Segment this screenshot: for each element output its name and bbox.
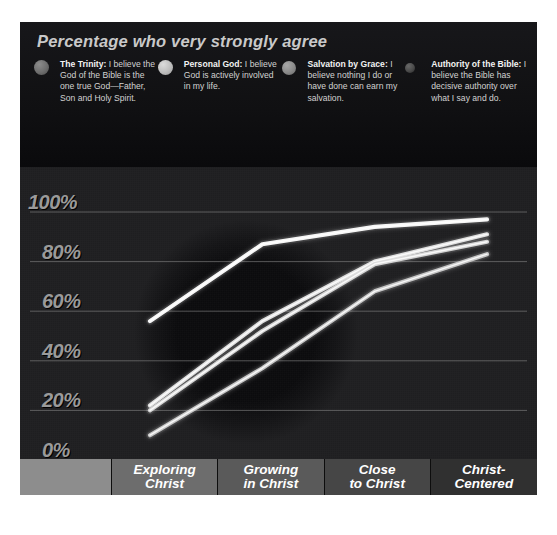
series-glow-1	[150, 234, 487, 405]
legend-item-authority-of-the-bible: Authority of the Bible: I believe the Bi…	[405, 58, 529, 104]
series-highlight-1	[150, 234, 487, 405]
y-tick-label-20: 20%	[42, 389, 81, 412]
x-axis-label-line2: to Christ	[349, 477, 405, 492]
x-axis-label-line1: Close	[349, 463, 405, 478]
legend-item-salvation-by-grace: Salvation by Grace: I believe nothing I …	[282, 58, 406, 104]
legend-label-title: The Trinity:	[60, 59, 106, 69]
x-axis-label-text: ExploringChrist	[133, 463, 195, 492]
x-axis-label-text: Christ-Centered	[455, 463, 514, 492]
x-axis-label-line2: in Christ	[243, 477, 298, 492]
legend-dot-icon	[34, 60, 49, 75]
legend-label: Salvation by Grace: I believe nothing I …	[308, 58, 404, 104]
legend-label-title: Salvation by Grace:	[308, 59, 388, 69]
x-axis-label-3: Closeto Christ	[325, 459, 431, 495]
chart-figure: Percentage who very strongly agree The T…	[0, 0, 557, 535]
legend-dot-icon	[405, 63, 415, 73]
legend-label: Authority of the Bible: I believe the Bi…	[431, 58, 527, 104]
legend-label: Personal God: I believe God is actively …	[184, 58, 280, 93]
legend-dot-icon	[158, 60, 173, 75]
x-axis-spacer	[20, 459, 112, 495]
y-tick-label-100: 100%	[28, 191, 77, 214]
x-axis-label-line1: Christ-	[455, 463, 514, 478]
x-axis-label-line2: Centered	[455, 477, 514, 492]
legend-swatch-wrap	[34, 58, 60, 75]
chart-legend: The Trinity: I believe the God of the Bi…	[34, 58, 529, 104]
legend-item-personal-god: Personal God: I believe God is actively …	[158, 58, 282, 104]
y-tick-label-60: 60%	[42, 290, 81, 313]
legend-label-title: Authority of the Bible:	[431, 59, 521, 69]
y-tick-label-80: 80%	[42, 241, 81, 264]
x-axis-label-text: Growingin Christ	[243, 463, 298, 492]
x-axis-labels: ExploringChristGrowingin ChristCloseto C…	[20, 459, 537, 495]
legend-dot-icon	[282, 61, 296, 75]
series-glow-3	[150, 254, 487, 435]
x-axis-label-1: ExploringChrist	[112, 459, 218, 495]
series-line-1	[150, 234, 487, 405]
legend-item-trinity: The Trinity: I believe the God of the Bi…	[34, 58, 158, 104]
plot-lines-svg	[20, 167, 537, 459]
y-tick-label-40: 40%	[42, 340, 81, 363]
legend-label: The Trinity: I believe the God of the Bi…	[60, 58, 156, 104]
legend-swatch-wrap	[282, 58, 308, 75]
plot-area: 100%80%60%40%20%0%	[20, 167, 537, 459]
legend-swatch-wrap	[158, 58, 184, 75]
legend-swatch-wrap	[405, 58, 431, 73]
x-axis-label-4: Christ-Centered	[431, 459, 537, 495]
chart-header: Percentage who very strongly agree The T…	[20, 22, 537, 167]
chart-panel: Percentage who very strongly agree The T…	[20, 22, 537, 495]
chart-title: Percentage who very strongly agree	[37, 32, 327, 51]
x-axis-label-text: Closeto Christ	[349, 463, 405, 492]
x-axis-label-line1: Growing	[243, 463, 298, 478]
legend-label-title: Personal God:	[184, 59, 243, 69]
x-axis-label-line2: Christ	[133, 477, 195, 492]
x-axis-label-line1: Exploring	[133, 463, 195, 478]
series-lines	[150, 219, 487, 435]
x-axis-label-2: Growingin Christ	[218, 459, 324, 495]
